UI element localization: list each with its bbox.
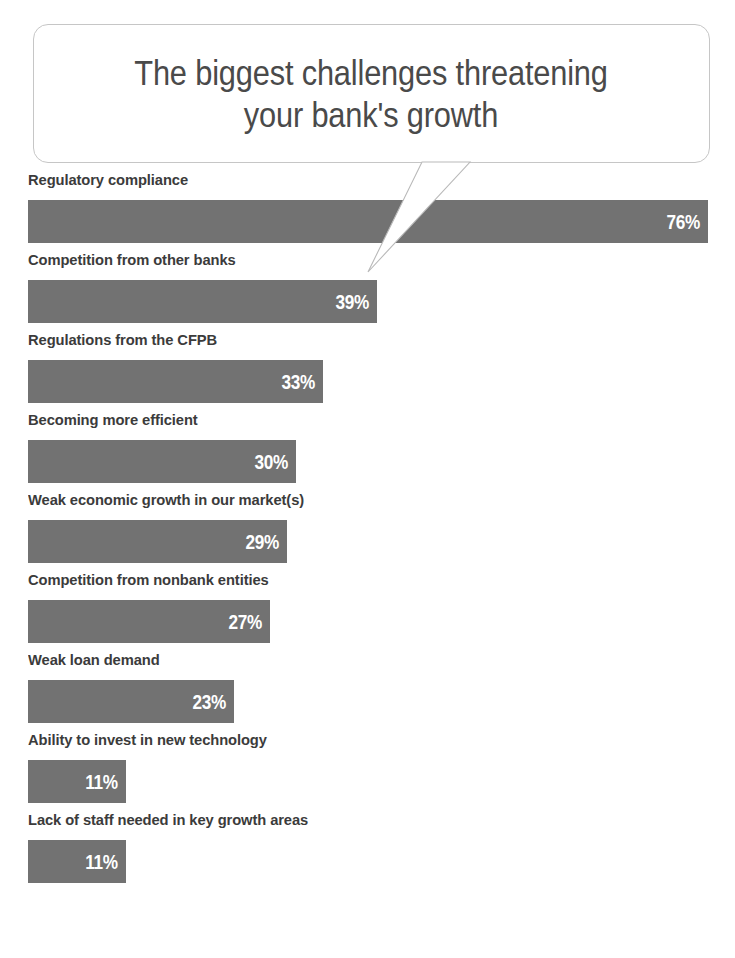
bar-category-label: Becoming more efficient — [28, 411, 198, 429]
title-callout-bubble: The biggest challenges threatening your … — [33, 24, 710, 163]
bar-category-label: Ability to invest in new technology — [28, 731, 267, 749]
bar: 23% — [28, 680, 234, 723]
bar-track: 27% — [28, 600, 270, 643]
bar-value-label: 29% — [246, 532, 279, 552]
bar-value-label: 27% — [229, 612, 262, 632]
bar-category-label: Weak loan demand — [28, 651, 160, 669]
bar-row: Becoming more efficient30% — [0, 411, 735, 491]
bar-track: 39% — [28, 280, 377, 323]
bar: 76% — [28, 200, 708, 243]
bar-row: Lack of staff needed in key growth areas… — [0, 811, 735, 891]
bar: 39% — [28, 280, 377, 323]
bar-value-label: 11% — [86, 772, 118, 792]
bar-value-label: 33% — [282, 372, 315, 392]
bar-category-label: Lack of staff needed in key growth areas — [28, 811, 308, 829]
bar-category-label: Competition from other banks — [28, 251, 236, 269]
bar-category-label: Competition from nonbank entities — [28, 571, 269, 589]
bar-track: 30% — [28, 440, 296, 483]
bar: 11% — [28, 760, 126, 803]
bar-row: Weak economic growth in our market(s)29% — [0, 491, 735, 571]
bar-category-label: Weak economic growth in our market(s) — [28, 491, 304, 509]
bar-row: Competition from other banks39% — [0, 251, 735, 331]
bar-row: Competition from nonbank entities27% — [0, 571, 735, 651]
bar-value-label: 76% — [667, 212, 700, 232]
bar-row: Regulatory compliance76% — [0, 171, 735, 251]
bar-category-label: Regulatory compliance — [28, 171, 188, 189]
page-title: The biggest challenges threatening your … — [117, 52, 626, 135]
bar-value-label: 11% — [86, 852, 118, 872]
bar-track: 23% — [28, 680, 234, 723]
bar-track: 29% — [28, 520, 287, 563]
bar-value-label: 39% — [336, 292, 369, 312]
bar: 33% — [28, 360, 323, 403]
bar-category-label: Regulations from the CFPB — [28, 331, 217, 349]
bar-row: Ability to invest in new technology11% — [0, 731, 735, 811]
bar: 30% — [28, 440, 296, 483]
bar: 29% — [28, 520, 287, 563]
bar-value-label: 23% — [193, 692, 226, 712]
bar-chart: Regulatory compliance76%Competition from… — [0, 171, 735, 891]
bar: 27% — [28, 600, 270, 643]
bar-track: 11% — [28, 840, 126, 883]
bar-track: 33% — [28, 360, 323, 403]
bar-track: 76% — [28, 200, 708, 243]
bar-row: Regulations from the CFPB33% — [0, 331, 735, 411]
bar: 11% — [28, 840, 126, 883]
bar-track: 11% — [28, 760, 126, 803]
bar-row: Weak loan demand23% — [0, 651, 735, 731]
bar-value-label: 30% — [255, 452, 288, 472]
